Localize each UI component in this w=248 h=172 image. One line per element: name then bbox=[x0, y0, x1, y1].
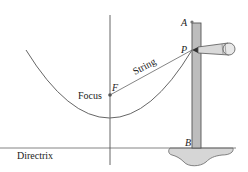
label-directrix: Directrix bbox=[17, 150, 53, 161]
parabola-curve bbox=[26, 50, 192, 118]
label-f: F bbox=[111, 82, 119, 93]
ruler bbox=[192, 23, 201, 148]
ruler-base bbox=[169, 148, 233, 166]
point-a-marker bbox=[190, 20, 193, 23]
diagram-canvas: A P B F Focus String Directrix bbox=[0, 0, 248, 172]
label-string: String bbox=[131, 56, 158, 77]
label-focus: Focus bbox=[78, 90, 102, 101]
focus-point-marker bbox=[108, 93, 112, 97]
label-a: A bbox=[180, 17, 188, 28]
label-b: B bbox=[185, 137, 191, 148]
label-p: P bbox=[180, 44, 187, 55]
parabola-construction-diagram: A P B F Focus String Directrix bbox=[0, 0, 248, 172]
